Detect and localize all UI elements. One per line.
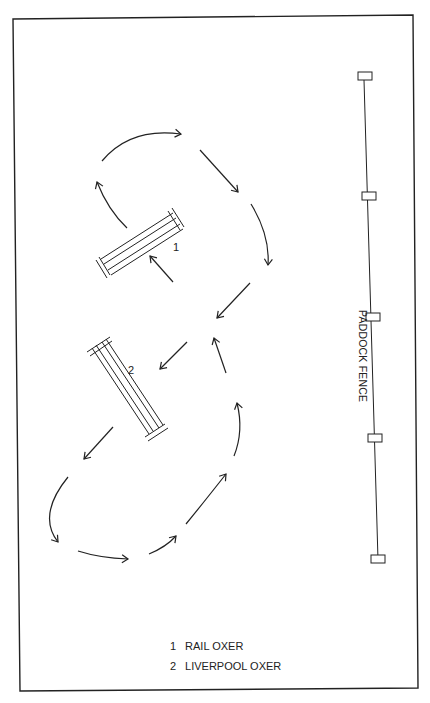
path-arrow: [97, 182, 127, 228]
paddock-fence-label: PADDOCK FENCE: [357, 310, 369, 402]
legend-number: 1: [170, 636, 182, 656]
path-arrow: [78, 551, 128, 559]
path-arrow: [150, 256, 173, 282]
legend-label: LIVERPOOL OXER: [185, 660, 281, 672]
course-path: [50, 133, 269, 559]
legend-number: 2: [170, 656, 182, 676]
fence-post: [371, 555, 385, 563]
path-arrow: [234, 403, 240, 456]
jump-2-liverpool-oxer: [87, 337, 168, 441]
path-arrow: [149, 536, 176, 554]
path-arrow: [102, 133, 181, 161]
jump-2-number: 2: [128, 364, 134, 376]
path-arrow: [84, 427, 113, 459]
path-arrow: [50, 477, 68, 542]
jump-1-number: 1: [173, 241, 179, 253]
path-arrow: [186, 474, 226, 524]
path-arrow: [200, 150, 238, 192]
path-arrow: [160, 342, 187, 369]
legend-item-liverpool-oxer: 2 LIVERPOOL OXER: [170, 656, 281, 676]
jump-1-rail-oxer: [96, 208, 184, 278]
path-arrow: [214, 338, 226, 373]
path-arrow: [217, 283, 250, 318]
legend: 1 RAIL OXER 2 LIVERPOOL OXER: [170, 636, 281, 676]
fence-post: [358, 72, 372, 80]
path-arrow: [251, 204, 268, 265]
fence-post: [362, 192, 376, 200]
legend-label: RAIL OXER: [185, 640, 243, 652]
fence-post: [368, 434, 382, 442]
legend-item-rail-oxer: 1 RAIL OXER: [170, 636, 281, 656]
